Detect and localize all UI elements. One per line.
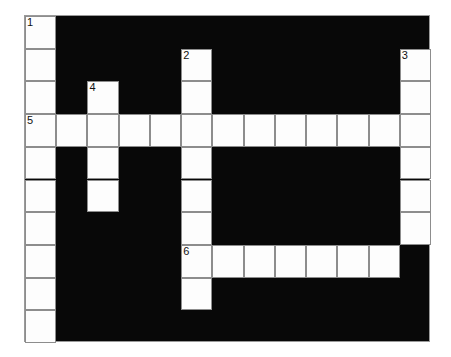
crossword-cell[interactable] [87, 147, 118, 180]
cell-number-label: 4 [89, 81, 95, 93]
crossword-cell[interactable] [25, 278, 56, 311]
crossword-cell[interactable] [150, 114, 181, 147]
crossword-cell[interactable] [212, 114, 243, 147]
crossword-cell[interactable] [181, 81, 212, 114]
crossword-grid[interactable]: 152634 [24, 15, 430, 342]
crossword-cell[interactable] [400, 114, 431, 147]
crossword-cell[interactable]: 1 [25, 16, 56, 49]
crossword-cell[interactable] [25, 245, 56, 278]
crossword-cell[interactable] [25, 147, 56, 180]
crossword-cell[interactable] [306, 114, 337, 147]
crossword-cell[interactable] [244, 245, 275, 278]
crossword-cell[interactable] [25, 212, 56, 245]
cell-number-label: 3 [402, 49, 408, 61]
crossword-cell[interactable]: 2 [181, 49, 212, 82]
crossword-cell[interactable] [119, 114, 150, 147]
crossword-cell[interactable] [306, 245, 337, 278]
crossword-cell[interactable] [56, 114, 87, 147]
crossword-cell[interactable] [25, 49, 56, 82]
crossword-cell[interactable] [181, 278, 212, 311]
crossword-cell[interactable] [275, 114, 306, 147]
crossword-cell[interactable] [181, 114, 212, 147]
cell-number-label: 1 [27, 16, 33, 28]
crossword-cell[interactable] [181, 147, 212, 180]
crossword-cell[interactable] [369, 114, 400, 147]
crossword-cell[interactable] [400, 180, 431, 213]
crossword-cell[interactable]: 3 [400, 49, 431, 82]
crossword-cell[interactable] [337, 245, 368, 278]
crossword-puzzle: 152634 [0, 0, 451, 357]
crossword-cell[interactable] [25, 310, 56, 343]
crossword-cell[interactable] [212, 245, 243, 278]
crossword-cell[interactable] [87, 180, 118, 213]
crossword-cell[interactable] [369, 245, 400, 278]
crossword-cell[interactable] [25, 81, 56, 114]
crossword-cell[interactable] [400, 81, 431, 114]
crossword-cell[interactable] [181, 212, 212, 245]
crossword-cell[interactable] [181, 180, 212, 213]
cell-number-label: 2 [183, 49, 189, 61]
cell-number-label: 6 [183, 245, 189, 257]
crossword-cell[interactable]: 4 [87, 81, 118, 114]
crossword-cell[interactable] [25, 180, 56, 213]
crossword-cell[interactable] [337, 114, 368, 147]
crossword-cell[interactable]: 6 [181, 245, 212, 278]
crossword-cell[interactable] [400, 147, 431, 180]
crossword-cell[interactable] [244, 114, 275, 147]
crossword-cell[interactable] [87, 114, 118, 147]
cell-number-label: 5 [27, 114, 33, 126]
crossword-cell[interactable]: 5 [25, 114, 56, 147]
crossword-cell[interactable] [400, 212, 431, 245]
crossword-cell[interactable] [275, 245, 306, 278]
